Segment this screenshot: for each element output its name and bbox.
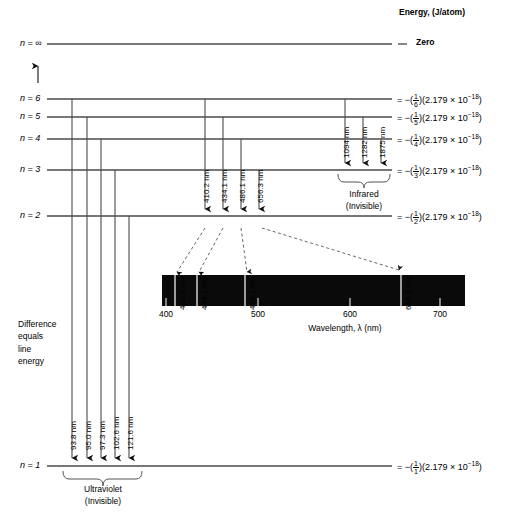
lyman-transitions [72, 99, 129, 458]
frac-den-5: 5 [413, 119, 419, 126]
energy-value-5: = −(15)(2.179 × 10−18) [397, 111, 482, 127]
exponent-6: −18 [468, 93, 479, 100]
const-1: (2.179 × 10 [422, 462, 468, 472]
frac-den-2: 2 [413, 218, 419, 225]
lyman-label-1216: 121.6 nm [126, 417, 135, 450]
spectrum-tick-label-700: 700 [430, 309, 450, 319]
energy-level-diagram: Energy, (J/atom) Zero n = ∞ n = 6 n = 5 … [0, 0, 520, 520]
tail-4: ) [479, 135, 482, 145]
projection-lines [177, 228, 399, 272]
frac-den-6: 6 [413, 101, 419, 108]
paschen-label-1875: 1875 nm [378, 127, 387, 158]
tail-2: ) [479, 212, 482, 222]
energy-level-lines [47, 44, 392, 466]
level-label-5: n = 5 [20, 111, 40, 121]
exponent-3: −18 [468, 164, 479, 171]
eq-sign-4: = [397, 135, 402, 145]
const-6: (2.179 × 10 [422, 95, 468, 105]
spectrum-line-label-4861: 486.1 nm [248, 277, 257, 310]
frac-num-6: 1 [413, 93, 419, 101]
spectrum-tick-label-600: 600 [340, 309, 360, 319]
infrared-label: Infrared [324, 189, 404, 199]
balmer-label-4102: 410.2 nm [202, 170, 211, 203]
level-label-inf: n = ∞ [20, 38, 42, 48]
ultraviolet-visibility: (Invisible) [63, 496, 143, 506]
level-label-1: n = 1 [20, 460, 40, 470]
const-5: (2.179 × 10 [422, 113, 468, 123]
frac-num-1: 1 [413, 460, 419, 468]
infrared-brace [338, 174, 390, 188]
exponent-1: −18 [468, 460, 479, 467]
difference-note-line-1: Difference [18, 318, 57, 330]
energy-value-6: = −(16)(2.179 × 10−18) [397, 93, 482, 109]
level-label-4: n = 4 [20, 133, 40, 143]
fraction-5: 15 [413, 111, 419, 127]
projection-4102 [177, 228, 205, 272]
const-2: (2.179 × 10 [422, 212, 468, 222]
zero-energy-label: Zero [416, 38, 434, 48]
difference-note: Difference equals line energy [18, 318, 57, 367]
level-label-3: n = 3 [20, 164, 40, 174]
energy-value-3: = −(13)(2.179 × 10−18) [397, 164, 482, 180]
exponent-5: −18 [468, 111, 479, 118]
difference-note-line-4: energy [18, 355, 57, 367]
spectrum-line-label-4102: 410.2 nm [178, 277, 187, 310]
energy-axis-title: Energy, (J/atom) [399, 8, 465, 18]
balmer-label-6563: 656.3 nm [256, 170, 265, 203]
eq-sign-3: = [397, 166, 402, 176]
fraction-6: 16 [413, 93, 419, 109]
tail-3: ) [479, 166, 482, 176]
projection-4341 [199, 228, 223, 272]
frac-den-1: 1 [413, 468, 419, 475]
frac-den-3: 3 [413, 172, 419, 179]
const-3: (2.179 × 10 [422, 166, 468, 176]
exponent-2: −18 [468, 210, 479, 217]
exponent-4: −18 [468, 133, 479, 140]
frac-den-4: 4 [413, 141, 419, 148]
balmer-label-4861: 486.1 nm [238, 170, 247, 203]
lyman-label-973: 97.3 nm [98, 421, 107, 450]
eq-sign-2: = [397, 212, 402, 222]
balmer-transitions [205, 99, 259, 209]
level-label-6: n = 6 [20, 93, 40, 103]
energy-value-1: = −(11)(2.179 × 10−18) [397, 460, 482, 476]
ultraviolet-label: Ultraviolet [63, 484, 143, 494]
spectrum-tick-label-500: 500 [248, 309, 268, 319]
projection-6563 [262, 228, 399, 270]
tail-1: ) [479, 462, 482, 472]
level-label-2: n = 2 [20, 210, 40, 220]
paschen-label-1094: 1094 nm [342, 127, 351, 158]
lyman-label-938: 93.8 nm [69, 421, 78, 450]
infrared-visibility: (Invisible) [324, 201, 404, 211]
eq-sign-6: = [397, 95, 402, 105]
frac-num-5: 1 [413, 111, 419, 119]
difference-note-line-2: equals [18, 330, 57, 342]
fraction-4: 14 [413, 133, 419, 149]
fraction-3: 13 [413, 164, 419, 180]
lyman-label-1026: 102.6 nm [112, 417, 121, 450]
const-4: (2.179 × 10 [422, 135, 468, 145]
difference-note-line-3: line [18, 343, 57, 355]
energy-value-4: = −(14)(2.179 × 10−18) [397, 133, 482, 149]
frac-num-2: 1 [413, 210, 419, 218]
lyman-label-950: 95.0 nm [84, 421, 93, 450]
wavelength-axis-label: Wavelength, λ (nm) [255, 323, 435, 333]
tail-5: ) [479, 113, 482, 123]
eq-sign-5: = [397, 113, 402, 123]
tail-6: ) [479, 95, 482, 105]
diagram-canvas [0, 0, 520, 520]
frac-num-4: 1 [413, 133, 419, 141]
energy-value-2: = −(12)(2.179 × 10−18) [397, 210, 482, 226]
spectrum-line-label-4341: 434.1 nm [200, 277, 209, 310]
fraction-1: 11 [413, 460, 419, 476]
spectrum-tick-label-400: 400 [156, 309, 176, 319]
frac-num-3: 1 [413, 164, 419, 172]
spectrum-line-label-6563: 656.3 nm [404, 277, 413, 310]
paschen-label-1282: 1282 nm [360, 127, 369, 158]
balmer-label-4341: 434.1 nm [220, 170, 229, 203]
fraction-2: 12 [413, 210, 419, 226]
eq-sign-1: = [397, 462, 402, 472]
projection-4861 [241, 228, 247, 272]
